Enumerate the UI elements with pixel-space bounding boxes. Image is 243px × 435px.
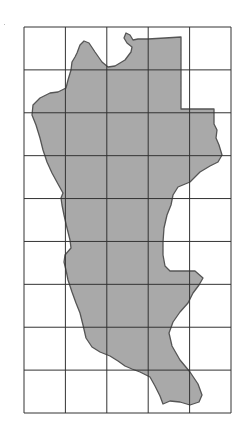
- grid-diagram: [0, 0, 243, 435]
- shaded-region: [32, 33, 222, 405]
